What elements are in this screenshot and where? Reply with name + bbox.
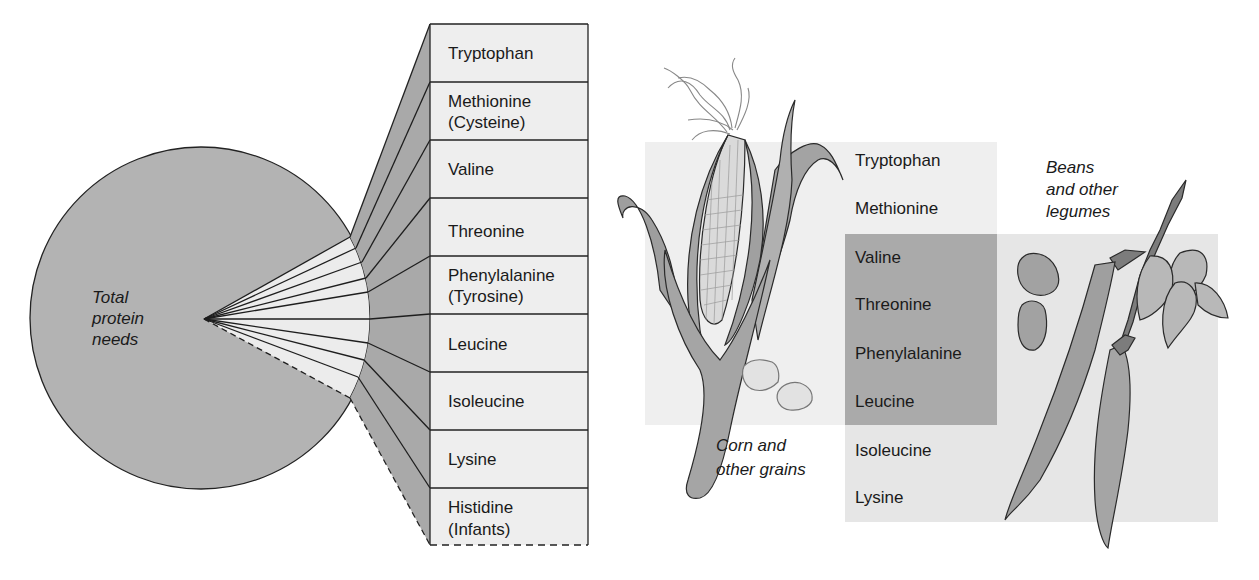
table-cell-isoleucine: Isoleucine	[448, 392, 525, 411]
mid-threonine: Threonine	[855, 295, 932, 314]
table-cell-tyrosine: (Tyrosine)	[448, 287, 524, 306]
table-cell-leucine: Leucine	[448, 335, 508, 354]
table-cell-threonine: Threonine	[448, 222, 525, 241]
corn-label-line-1: Corn and	[716, 436, 786, 455]
table-cell-valine: Valine	[448, 160, 494, 179]
beans-label-line-3: legumes	[1046, 202, 1111, 221]
table-cell-tryptophan: Tryptophan	[448, 44, 533, 63]
mid-methionine: Methionine	[855, 199, 938, 218]
amino-acid-table: Tryptophan Methionine (Cysteine) Valine …	[430, 24, 588, 545]
table-cell-phenylalanine: Phenylalanine	[448, 266, 555, 285]
circle-label-line-3: needs	[92, 330, 139, 349]
total-protein-circle	[30, 147, 372, 489]
circle-label-line-2: protein	[91, 309, 144, 328]
beans-label-line-1: Beans	[1046, 158, 1095, 177]
mid-isoleucine: Isoleucine	[855, 441, 932, 460]
table-cell-histidine: Histidine	[448, 498, 513, 517]
essential-amino-acids-diagram: Total protein needs Tryptophan Methionin…	[0, 0, 1259, 580]
table-cell-infants: (Infants)	[448, 520, 510, 539]
table-cell-cysteine: (Cysteine)	[448, 113, 525, 132]
corn-label-line-2: other grains	[716, 460, 806, 479]
corn-label: Corn and other grains	[716, 436, 806, 479]
circle-label-line-1: Total	[92, 288, 129, 307]
beans-label-line-2: and other	[1046, 180, 1119, 199]
beans-label: Beans and other legumes	[1046, 158, 1119, 221]
mid-lysine: Lysine	[855, 488, 904, 507]
mid-tryptophan: Tryptophan	[855, 151, 940, 170]
mid-leucine: Leucine	[855, 392, 915, 411]
mid-phenylalanine: Phenylalanine	[855, 344, 962, 363]
table-cell-lysine: Lysine	[448, 450, 497, 469]
table-cell-methionine: Methionine	[448, 92, 531, 111]
mid-valine: Valine	[855, 248, 901, 267]
